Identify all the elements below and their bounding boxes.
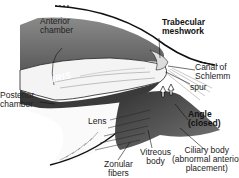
label-spur: spur xyxy=(190,83,207,92)
eye-angle-diagram: Anterior chamber Trabecular meshwork Can… xyxy=(0,0,239,178)
label-angle-closed: Angle (closed) xyxy=(188,110,221,128)
label-vitreous-body: Vitreous body xyxy=(140,148,171,166)
label-anterior-chamber: Anterior chamber xyxy=(40,17,73,35)
label-posterior-chamber: Posterior chamber xyxy=(0,91,34,109)
label-ciliary-body: Ciliary body (abnormal anterior placemen… xyxy=(172,146,239,173)
label-zonular-fibers: Zonular fibers xyxy=(104,160,133,178)
label-canal-of-schlemm: Canal of Schlemm xyxy=(195,63,230,81)
label-lens: Lens xyxy=(88,117,106,126)
label-trabecular-meshwork: Trabecular meshwork xyxy=(162,18,205,36)
